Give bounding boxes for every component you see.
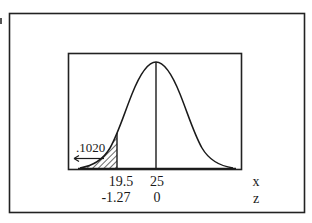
area-label: .1020 — [76, 141, 105, 155]
z-tick-label-0: 0 — [154, 191, 161, 205]
x-tick-label-19-5: 19.5 — [109, 175, 134, 189]
x-tick-label-25: 25 — [150, 175, 164, 189]
z-tick-label-neg-1-27: -1.27 — [101, 191, 130, 205]
z-axis-label: z — [253, 192, 259, 206]
x-axis-label: x — [253, 175, 260, 189]
figure: .1020 19.5 25 -1.27 0 x z — [0, 0, 312, 223]
